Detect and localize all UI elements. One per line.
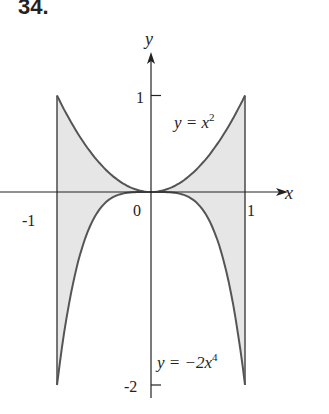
curve-label-2x4: y = −2x4 — [155, 351, 218, 372]
chart: -1 0 1 x y 1 -2 y = x2 y = −2x4 — [0, 0, 329, 414]
curve-label-x2: y = x2 — [172, 111, 215, 132]
plot-area — [0, 52, 288, 398]
x-tick-1: 1 — [247, 202, 255, 219]
y-axis-label: y — [143, 29, 153, 49]
x-axis-label: x — [284, 183, 293, 203]
x-tick-neg1: -1 — [22, 212, 35, 229]
y-tick-1: 1 — [136, 89, 144, 106]
y-tick-neg2: -2 — [124, 378, 137, 395]
x-tick-0: 0 — [133, 202, 141, 219]
